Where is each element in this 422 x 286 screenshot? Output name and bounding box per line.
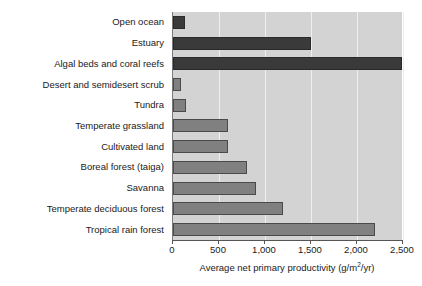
category-label: Desert and semidesert scrub xyxy=(43,80,164,90)
category-label: Temperate grassland xyxy=(75,121,164,131)
x-tick-label: 500 xyxy=(210,245,226,255)
x-axis-title: Average net primary productivity (g/m2/y… xyxy=(172,262,402,273)
x-tick-label: 1,000 xyxy=(252,245,276,255)
category-label: Cultivated land xyxy=(101,142,164,152)
bar-tropical-rain-forest xyxy=(173,223,375,236)
bar-row xyxy=(173,53,402,74)
bar-cultivated-land xyxy=(173,140,228,153)
x-axis-title-before: Average net primary productivity (g/m xyxy=(199,262,357,273)
x-tick-label: 2,000 xyxy=(344,245,368,255)
category-label: Temperate deciduous forest xyxy=(47,204,164,214)
chart-figure: Open oceanEstuaryAlgal beds and coral re… xyxy=(0,0,422,286)
category-label: Open ocean xyxy=(112,18,164,28)
category-label: Savanna xyxy=(126,183,164,193)
category-label-column: Open oceanEstuaryAlgal beds and coral re… xyxy=(0,12,169,240)
bar-algal-beds-and-coral-reefs xyxy=(173,57,402,70)
bar-open-ocean xyxy=(173,16,185,29)
bar-rows xyxy=(173,12,402,240)
bar-row xyxy=(173,136,402,157)
category-label: Algal beds and coral reefs xyxy=(54,59,164,69)
x-tick-label: 2,500 xyxy=(390,245,414,255)
bar-tundra xyxy=(173,99,186,112)
x-axis-line xyxy=(172,240,402,241)
bar-row xyxy=(173,95,402,116)
bar-row xyxy=(173,199,402,220)
category-label: Tropical rain forest xyxy=(86,225,164,235)
bar-temperate-grassland xyxy=(173,119,228,132)
x-axis-title-after: /yr) xyxy=(361,262,375,273)
plot-area xyxy=(172,12,402,240)
bar-row xyxy=(173,219,402,240)
bar-temperate-deciduous-forest xyxy=(173,202,283,215)
gridline-2500 xyxy=(403,12,404,240)
bar-estuary xyxy=(173,37,311,50)
bar-boreal-forest-taiga xyxy=(173,161,247,174)
x-tick-label: 1,500 xyxy=(298,245,322,255)
category-label: Boreal forest (taiga) xyxy=(81,163,164,173)
x-tick-label: 0 xyxy=(169,245,174,255)
bar-row xyxy=(173,74,402,95)
bar-row xyxy=(173,12,402,33)
bar-desert-and-semidesert-scrub xyxy=(173,78,181,91)
bar-savanna xyxy=(173,182,256,195)
bar-row xyxy=(173,33,402,54)
bar-row xyxy=(173,178,402,199)
category-label: Estuary xyxy=(132,38,164,48)
bar-row xyxy=(173,116,402,137)
bar-row xyxy=(173,157,402,178)
category-label: Tundra xyxy=(134,101,164,111)
